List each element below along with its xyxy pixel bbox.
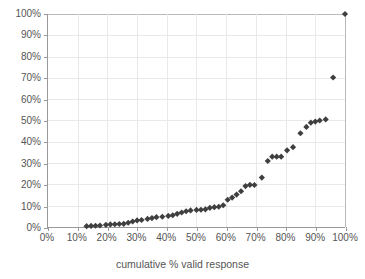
data-point-marker (251, 182, 257, 188)
x-axis-tick (316, 227, 317, 231)
y-axis-tick (44, 100, 48, 101)
data-point-marker (308, 120, 314, 126)
y-axis-tick (44, 207, 48, 208)
y-axis-tick-label: 30% (1, 159, 41, 169)
data-point-marker (130, 218, 136, 224)
x-axis-tick (78, 227, 79, 231)
x-axis-title: cumulative % valid response (0, 258, 365, 270)
data-point-marker (278, 154, 284, 160)
y-axis-tick (44, 14, 48, 15)
data-point-marker (242, 183, 248, 189)
y-axis-tick (44, 57, 48, 58)
data-point-marker (312, 118, 318, 124)
data-point-marker (179, 209, 185, 215)
y-axis-tick-label: 60% (1, 95, 41, 105)
x-axis-tick (48, 227, 49, 231)
data-point-marker (303, 124, 309, 130)
data-point-marker (121, 221, 127, 227)
data-point-marker (323, 116, 329, 122)
y-axis-tick-label: 20% (1, 180, 41, 190)
x-axis-tick (108, 227, 109, 231)
y-axis-tick-label: 100% (1, 9, 41, 19)
data-point-marker (144, 216, 150, 222)
data-point-marker (259, 174, 265, 180)
data-point-marker (342, 11, 348, 17)
y-axis-tick (44, 78, 48, 79)
data-point-marker (284, 147, 290, 153)
y-axis-tick (44, 121, 48, 122)
y-axis-tick-label: 10% (1, 202, 41, 212)
data-point-marker (159, 214, 165, 220)
x-axis-tick (137, 227, 138, 231)
x-axis-tick (197, 227, 198, 231)
y-axis-tick (44, 35, 48, 36)
data-point-marker (330, 74, 336, 80)
data-points (48, 14, 345, 227)
data-point-marker (153, 214, 159, 220)
y-axis-tick-label: 80% (1, 52, 41, 62)
x-axis-tick (227, 227, 228, 231)
y-axis-tick (44, 142, 48, 143)
data-point-marker (317, 117, 323, 123)
y-axis-tick-label: 70% (1, 73, 41, 83)
x-axis-tick (346, 227, 347, 231)
y-axis-tick (44, 185, 48, 186)
x-axis-tick (257, 227, 258, 231)
y-axis-tick-label: 0% (1, 223, 41, 233)
data-point-marker (149, 215, 155, 221)
x-axis-tick-label: 100% (323, 233, 365, 243)
data-point-marker (138, 217, 144, 223)
y-axis-tick-label: 90% (1, 30, 41, 40)
y-axis-tick-label: 50% (1, 116, 41, 126)
data-point-marker (265, 158, 271, 164)
data-point-marker (238, 188, 244, 194)
plot-area (47, 14, 345, 228)
data-point-marker (125, 220, 131, 226)
x-axis-tick (167, 227, 168, 231)
y-axis-tick (44, 164, 48, 165)
x-axis-tick (286, 227, 287, 231)
scatter-chart: 0%10%20%30%40%50%60%70%80%90%100% 0%10%2… (0, 0, 365, 279)
data-point-marker (234, 192, 240, 198)
y-axis-tick-label: 40% (1, 137, 41, 147)
data-point-marker (297, 130, 303, 136)
data-point-marker (290, 144, 296, 150)
data-point-marker (183, 208, 189, 214)
data-point-marker (187, 207, 193, 213)
data-point-marker (97, 222, 103, 228)
